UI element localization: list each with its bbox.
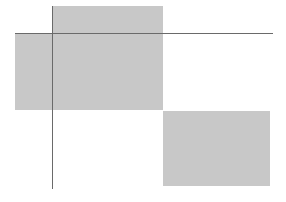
rect-top [52, 6, 163, 34]
line-horizontal [15, 33, 273, 34]
rect-bottom-right [163, 111, 270, 186]
rect-left-middle [15, 33, 163, 110]
line-vertical [52, 6, 53, 189]
